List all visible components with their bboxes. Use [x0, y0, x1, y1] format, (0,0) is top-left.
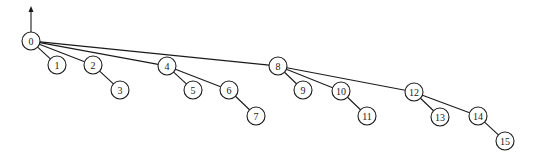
node-label: 13 — [435, 112, 445, 123]
tree-node-0: 0 — [22, 32, 40, 50]
node-label: 1 — [55, 60, 60, 71]
tree-node-15: 15 — [496, 132, 514, 150]
node-label: 11 — [362, 111, 372, 122]
edge-0-1 — [38, 47, 51, 59]
tree-node-9: 9 — [294, 81, 312, 99]
edge-6-7 — [235, 96, 249, 110]
root-arrow — [29, 6, 34, 32]
node-label: 12 — [409, 87, 419, 98]
tree-node-3: 3 — [111, 81, 129, 99]
node-label: 0 — [29, 36, 34, 47]
tree-node-4: 4 — [158, 57, 176, 75]
tree-node-14: 14 — [469, 107, 487, 125]
node-label: 6 — [227, 85, 232, 96]
node-label: 4 — [165, 61, 170, 72]
edge-4-5 — [174, 72, 187, 84]
edge-0-8 — [40, 42, 269, 65]
edge-12-13 — [420, 98, 433, 111]
node-label: 15 — [500, 136, 510, 147]
node-label: 10 — [336, 86, 346, 97]
edges — [38, 42, 499, 135]
tree-node-2: 2 — [84, 56, 102, 74]
edge-2-3 — [100, 71, 114, 84]
node-label: 5 — [191, 85, 196, 96]
nodes: 0123456789101112131415 — [22, 32, 514, 150]
tree-node-5: 5 — [184, 81, 202, 99]
node-label: 9 — [301, 85, 306, 96]
tree-node-7: 7 — [247, 107, 265, 125]
tree-node-12: 12 — [405, 83, 423, 101]
node-label: 3 — [118, 85, 123, 96]
tree-node-8: 8 — [269, 57, 287, 75]
edge-8-9 — [284, 72, 296, 84]
node-label: 14 — [473, 111, 483, 122]
binomial-tree-diagram: 0123456789101112131415 — [0, 0, 533, 161]
tree-node-6: 6 — [220, 81, 238, 99]
edge-10-11 — [347, 97, 360, 110]
tree-node-1: 1 — [48, 56, 66, 74]
edge-14-15 — [485, 122, 499, 135]
arrow-up-icon — [29, 6, 34, 12]
tree-node-13: 13 — [431, 108, 449, 126]
node-label: 7 — [254, 111, 259, 122]
tree-node-10: 10 — [332, 82, 350, 100]
node-label: 2 — [91, 60, 96, 71]
tree-node-11: 11 — [358, 107, 376, 125]
node-label: 8 — [276, 61, 281, 72]
